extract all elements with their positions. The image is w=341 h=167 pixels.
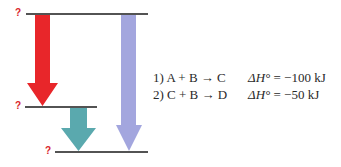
level-middle-unknown: ? (15, 101, 21, 111)
reaction-1-dh-symbol: ΔH° (248, 70, 270, 85)
reaction-1: 1) A + B → C ΔH° = −100 kJ (153, 71, 338, 85)
reaction-2-equation: C + B → D (167, 87, 227, 102)
reaction-2-number: 2) (153, 87, 164, 102)
reaction-2: 2) C + B → D ΔH° = −50 kJ (153, 88, 338, 102)
reaction-2-dh-symbol: ΔH° (248, 87, 270, 102)
level-bottom-unknown: ? (45, 146, 51, 156)
arrow-reaction-1-icon (27, 15, 58, 106)
arrow-overall-icon (116, 15, 142, 151)
reaction-1-equation: A + B → C (166, 70, 225, 85)
arrow-reaction-2-icon (61, 108, 96, 151)
reaction-1-number: 1) (153, 70, 164, 85)
reaction-1-dh-value: = −100 kJ (273, 70, 325, 85)
reaction-2-dh-value: = −50 kJ (273, 87, 319, 102)
level-top-unknown: ? (15, 8, 21, 18)
